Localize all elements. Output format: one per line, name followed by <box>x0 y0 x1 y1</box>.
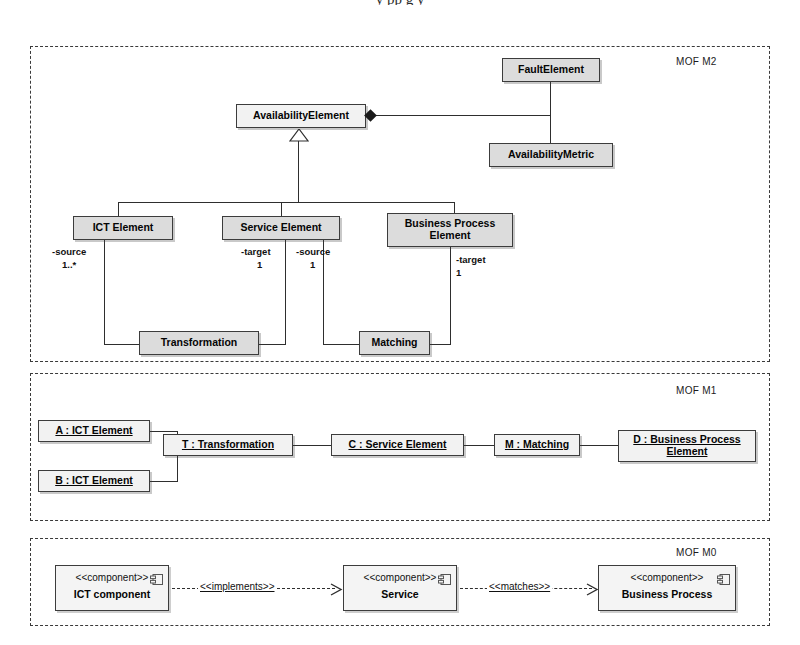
object-c-service-element-label: C : Service Element <box>335 439 460 451</box>
class-matching[interactable]: Matching <box>359 331 430 355</box>
object-t-transformation-label: T : Transformation <box>167 439 289 451</box>
link-b-to-t-v <box>177 452 178 482</box>
class-availability-metric[interactable]: AvailabilityMetric <box>489 143 613 167</box>
class-fault-element[interactable]: FaultElement <box>502 58 600 82</box>
object-a-ict-element-label: A : ICT Element <box>42 425 146 437</box>
generalization-triangle-availability-element <box>289 128 309 146</box>
layer-mof-m2 <box>30 46 770 362</box>
component-service-name: Service <box>344 588 456 600</box>
role-ict-source-name: -source <box>52 246 86 257</box>
link-t-to-c <box>293 445 332 446</box>
object-a-ict-element[interactable]: A : ICT Element <box>38 420 150 442</box>
edge-generalization-drop-ict <box>118 202 119 216</box>
role-bpe-target-name: -target <box>456 254 486 265</box>
class-availability-element-label: AvailabilityElement <box>240 110 362 122</box>
edge-generalization-drop-service <box>281 202 282 216</box>
component-icon <box>717 571 730 582</box>
edge-service-source-to-matching-h <box>323 344 359 345</box>
role-service-source-name: -source <box>296 246 330 257</box>
layer-label-mof-m0: MOF M0 <box>676 547 717 558</box>
edge-service-target-to-transformation-h <box>259 344 286 345</box>
layer-label-mof-m2: MOF M2 <box>676 56 717 67</box>
role-bpe-target-multiplicity: 1 <box>456 267 461 278</box>
component-icon <box>438 571 451 582</box>
page-caption-fragment: y pp g y <box>0 0 800 5</box>
link-a-to-t-h <box>150 431 178 432</box>
class-business-process-element-label-line2: Element <box>391 230 509 242</box>
object-t-transformation[interactable]: T : Transformation <box>163 434 293 456</box>
link-c-to-m <box>464 445 495 446</box>
object-d-business-process-element-label-line2: Element <box>622 446 752 458</box>
class-ict-element[interactable]: ICT Element <box>73 216 173 240</box>
class-business-process-element[interactable]: Business Process Element <box>387 213 513 247</box>
component-business-process-stereotype: <<component>> <box>599 572 735 583</box>
diagram-canvas: y pp g y MOF M2 FaultElement Availabilit… <box>0 0 800 645</box>
class-service-element[interactable]: Service Element <box>222 216 340 240</box>
component-icon <box>150 571 163 582</box>
class-transformation[interactable]: Transformation <box>139 331 259 355</box>
object-c-service-element[interactable]: C : Service Element <box>331 434 464 456</box>
edge-availability-metric-stem <box>550 115 551 143</box>
component-ict-name: ICT component <box>56 588 168 600</box>
role-service-target-multiplicity: 1 <box>257 259 262 270</box>
object-b-ict-element[interactable]: B : ICT Element <box>38 470 150 492</box>
class-availability-element[interactable]: AvailabilityElement <box>236 104 366 128</box>
edge-generalization-stem <box>298 140 299 202</box>
component-business-process-name: Business Process <box>599 588 735 600</box>
edge-bpe-target-to-matching-h <box>430 344 451 345</box>
edge-generalization-drop-bpe <box>454 202 455 213</box>
class-matching-label: Matching <box>363 337 426 349</box>
object-d-business-process-element[interactable]: D : Business Process Element <box>618 430 756 462</box>
edge-availability-composition-line <box>366 115 551 116</box>
object-m-matching-label: M : Matching <box>498 439 576 451</box>
component-service[interactable]: <<component>> Service <box>343 565 457 611</box>
edge-generalization-trunk <box>118 202 455 203</box>
link-m-to-d <box>580 445 619 446</box>
layer-label-mof-m1: MOF M1 <box>676 385 717 396</box>
dependency-matches-arrowhead <box>585 582 599 600</box>
dependency-matches-label: <<matches>> <box>487 581 552 592</box>
role-service-source-multiplicity: 1 <box>310 259 315 270</box>
role-service-target-name: -target <box>241 246 271 257</box>
class-ict-element-label: ICT Element <box>77 222 169 234</box>
dependency-implements-arrowhead <box>329 582 343 600</box>
edge-service-target-to-transformation-v <box>285 240 286 345</box>
role-ict-source-multiplicity: 1..* <box>62 259 76 270</box>
class-transformation-label: Transformation <box>143 337 255 349</box>
class-fault-element-label: FaultElement <box>506 64 596 76</box>
object-m-matching[interactable]: M : Matching <box>494 434 580 456</box>
edge-fault-element-stem <box>550 82 551 116</box>
dependency-implements-label: <<implements>> <box>198 581 277 592</box>
object-b-ict-element-label: B : ICT Element <box>42 475 146 487</box>
class-service-element-label: Service Element <box>226 222 336 234</box>
edge-ict-to-transformation-v <box>104 240 105 345</box>
component-business-process[interactable]: <<component>> Business Process <box>598 565 736 611</box>
link-b-to-t-h <box>150 481 178 482</box>
edge-ict-to-transformation-h <box>104 344 139 345</box>
edge-bpe-target-to-matching-v <box>450 247 451 345</box>
component-ict-component[interactable]: <<component>> ICT component <box>55 565 169 611</box>
class-availability-metric-label: AvailabilityMetric <box>493 149 609 161</box>
